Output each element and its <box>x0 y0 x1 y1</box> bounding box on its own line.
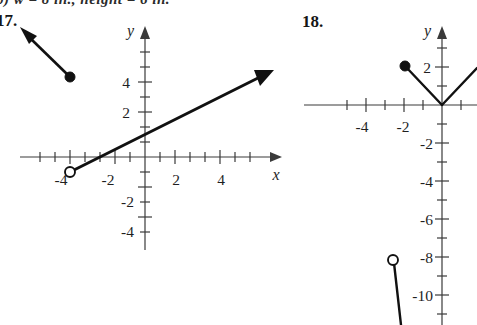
x-axis-label: x <box>271 166 279 183</box>
y-tick-label-2: 2 <box>423 59 431 76</box>
x-tick-label-neg4: -4 <box>356 118 369 135</box>
y-tick-label-neg2: -2 <box>420 135 433 152</box>
textbook-page: b) w = 8 in., height = 6 in. 17. 18. <box>0 0 477 325</box>
y-tick-label-neg6: -6 <box>420 211 433 228</box>
function-ray <box>65 70 274 177</box>
y-tick-label-neg2: -2 <box>121 193 134 210</box>
y-tick-label-neg4: -4 <box>420 173 433 190</box>
x-tick-label-2: 2 <box>172 171 180 188</box>
function-lower-branch <box>388 255 401 325</box>
y-tick-label-2: 2 <box>122 104 130 121</box>
x-axis <box>20 152 282 162</box>
graph-problem-18: -4 -2 2 -2 -4 -6 -8 -10 y <box>300 14 477 325</box>
pointer-arrow-annotation <box>20 27 75 82</box>
x-tick-label-neg4: -4 <box>55 171 68 188</box>
header-text: b) w = 8 in., height = 6 in. <box>0 0 170 8</box>
y-axis <box>437 26 447 325</box>
x-tick-label-neg2: -2 <box>397 118 410 135</box>
y-tick-label-neg4: -4 <box>121 223 134 240</box>
x-tick-label-neg2: -2 <box>102 171 115 188</box>
graph-problem-17: -4 -2 2 4 4 2 -2 -4 y x <box>8 14 290 254</box>
y-tick-label-neg8: -8 <box>420 249 433 266</box>
y-tick-label-neg10: -10 <box>412 287 433 304</box>
y-axis-label: y <box>125 22 135 40</box>
clipped-header-text: b) w = 8 in., height = 6 in. <box>0 0 477 9</box>
y-axis-label: y <box>422 22 432 40</box>
x-tick-label-4: 4 <box>217 171 225 188</box>
y-tick-label-4: 4 <box>122 74 130 91</box>
